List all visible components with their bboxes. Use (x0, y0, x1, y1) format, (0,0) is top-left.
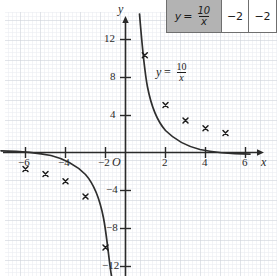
graph-screenshot: y x O −6 −4 −2 2 4 6 12 8 4 −4 −8 −12 y … (0, 0, 277, 276)
y-axis-label: y (118, 2, 123, 17)
annotation-lhs: y (156, 65, 161, 80)
partial-table: y = 10 x −2 −2 (166, 0, 277, 33)
y-tick-label--4: −4 (106, 183, 118, 195)
table-cell: −2 (222, 0, 249, 32)
origin-label: O (112, 155, 121, 170)
x-tick-label-6: 6 (242, 156, 248, 168)
x-tick-label--6: −6 (18, 156, 30, 168)
table-header-denominator: x (199, 16, 209, 27)
table-header-equals: = (183, 10, 192, 23)
table-header-fraction: 10 x (196, 6, 213, 27)
y-tick-label-12: 12 (104, 32, 115, 44)
table-header-cell: y = 10 x (167, 0, 222, 32)
x-tick-label--4: −4 (58, 156, 70, 168)
table-header-lhs: y (175, 10, 182, 23)
annotation-numerator: 10 (174, 62, 188, 72)
table-header-numerator: 10 (196, 6, 213, 16)
x-tick-label--2: −2 (98, 156, 110, 168)
annotation-fraction: 10 x (174, 62, 188, 83)
x-tick-label-2: 2 (162, 156, 168, 168)
table-cell: −2 (249, 0, 276, 32)
grid-paper (5, 12, 277, 276)
y-tick-label-4: 4 (110, 108, 116, 120)
annotation-denominator: x (177, 72, 185, 83)
x-tick-label-4: 4 (202, 156, 208, 168)
y-tick-label--8: −8 (106, 221, 118, 233)
x-axis-label: x (261, 155, 266, 170)
y-tick-label--12: −12 (102, 259, 119, 271)
coordinate-plane (0, 0, 277, 276)
y-tick-label-8: 8 (110, 70, 116, 82)
curve-equation-annotation: y = 10 x (156, 62, 189, 83)
annotation-equals: = (163, 65, 171, 80)
